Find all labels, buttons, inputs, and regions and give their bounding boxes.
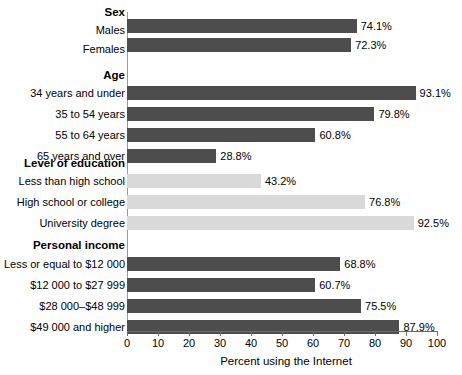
x-axis-tick-label: 40 (245, 337, 257, 349)
category-label: 55 to 64 years (55, 129, 125, 141)
bar (127, 86, 416, 100)
bar-value-label: 43.2% (261, 174, 296, 188)
group-heading-sex: Sex (105, 6, 125, 18)
bar (127, 38, 351, 52)
x-axis-tick-label: 60 (307, 337, 319, 349)
bar (127, 278, 315, 292)
category-label: $49 000 and higher (30, 321, 125, 333)
category-label: High school or college (17, 196, 125, 208)
bar-value-label: 68.8% (340, 257, 375, 271)
x-axis-tick (220, 332, 221, 336)
bar (127, 257, 340, 271)
category-label: 35 to 54 years (55, 108, 125, 120)
bar-value-label: 60.7% (315, 278, 350, 292)
x-axis-tick-label: 10 (152, 337, 164, 349)
category-label: Females (83, 43, 125, 55)
category-label: University degree (39, 217, 125, 229)
x-axis-tick (344, 332, 345, 336)
x-axis-tick (189, 332, 190, 336)
bar-chart: Sex Age Level of education Personal inco… (0, 0, 462, 375)
bar-value-label: 74.1% (357, 19, 392, 33)
x-axis-tick (406, 332, 407, 336)
bar (127, 19, 357, 33)
bar-value-label: 28.8% (216, 149, 251, 163)
bar-value-label: 79.8% (374, 107, 409, 121)
bar-value-label: 72.3% (351, 38, 386, 52)
bar-value-label: 93.1% (416, 86, 451, 100)
category-label: Males (96, 24, 125, 36)
bar-value-label: 92.5% (414, 216, 449, 230)
bar (127, 107, 374, 121)
group-heading-personal-income: Personal income (33, 239, 125, 251)
x-axis-tick-label: 50 (276, 337, 288, 349)
bar (127, 174, 261, 188)
bar-value-label: 76.8% (365, 195, 400, 209)
bar (127, 149, 216, 163)
x-axis-tick (251, 332, 252, 336)
x-axis-tick-label: 80 (369, 337, 381, 349)
x-axis-tick-label: 90 (400, 337, 412, 349)
x-axis-tick (375, 332, 376, 336)
category-label: Less or equal to $12 000 (4, 258, 125, 270)
plot-area: 74.1%72.3%93.1%79.8%60.8%28.8%43.2%76.8%… (127, 12, 437, 332)
bar (127, 216, 414, 230)
x-axis-tick (282, 332, 283, 336)
x-axis-tick-label: 0 (124, 337, 130, 349)
bar-value-label: 60.8% (315, 128, 350, 142)
x-axis-tick-label: 30 (214, 337, 226, 349)
bar-value-label: 75.5% (361, 299, 396, 313)
category-label: Less than high school (19, 175, 125, 187)
x-axis-tick (127, 332, 128, 336)
x-axis-tick-label: 100 (428, 337, 446, 349)
category-label: 34 years and under (30, 87, 125, 99)
bar (127, 128, 315, 142)
group-heading-age: Age (103, 69, 125, 81)
category-label: $28 000–$48 999 (39, 300, 125, 312)
x-axis-title-text: Percent using the Internet (220, 355, 352, 367)
x-axis-tick (313, 332, 314, 336)
x-axis-tick-label: 70 (338, 337, 350, 349)
bar (127, 195, 365, 209)
x-axis-tick (437, 332, 438, 336)
category-label: $12 000 to $27 999 (30, 279, 125, 291)
x-axis-tick-label: 20 (183, 337, 195, 349)
bar (127, 299, 361, 313)
x-axis-title: Percent using the Internet (0, 355, 462, 367)
x-axis-tick (158, 332, 159, 336)
category-label: 65 years and over (37, 150, 125, 162)
